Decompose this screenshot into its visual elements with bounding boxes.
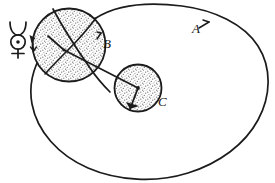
- mercury-center-dot: [16, 40, 20, 44]
- label-b: B: [103, 36, 111, 51]
- circle-c-center-dot: [136, 86, 140, 90]
- diagram-svg: A B C: [0, 0, 275, 183]
- circle-b-center-dot: [62, 48, 65, 51]
- figure-canvas: A B C: [0, 0, 275, 183]
- tick-mark-a: [199, 20, 209, 28]
- mercury-symbol: [10, 22, 26, 58]
- label-a: A: [191, 21, 200, 36]
- label-c: C: [158, 94, 167, 109]
